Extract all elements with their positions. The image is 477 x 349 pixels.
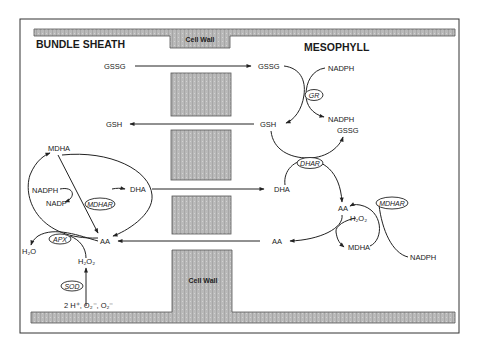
cell-wall-top-label: Cell Wall — [186, 36, 215, 43]
bs-h2o2-label: H₂O₂ — [78, 257, 95, 266]
ms-aa-label: AA — [338, 204, 348, 213]
ms-gssg-label: GSSG — [258, 62, 280, 71]
ms-aa-label: AA — [272, 237, 282, 246]
cell-wall-block-3 — [172, 196, 231, 234]
bs-aa-label: AA — [100, 237, 110, 246]
ms-mdha-label: MDHA — [348, 243, 370, 252]
bs-nadph-label: NADPH — [32, 186, 58, 195]
cell-wall-block-1 — [171, 73, 231, 116]
bs-gsh-label: GSH — [106, 120, 122, 129]
ms-gsh-label: GSH — [260, 120, 276, 129]
ms-gr-label: GR — [309, 92, 320, 99]
ms-mdhar-label: MDHAR — [379, 200, 405, 207]
ms-nadph-top-label: NADPH — [328, 64, 354, 73]
mesophyll-title: MESOPHYLL — [304, 41, 370, 53]
ms-dha-label: DHA — [274, 185, 290, 194]
bs-nadp-label: NADP — [46, 199, 67, 208]
cell-wall-bottom-label: Cell Wall — [189, 277, 218, 284]
ms-h2o2-label: H₂O₂ — [350, 214, 367, 223]
bs-sod-label: SOD — [64, 283, 79, 290]
bs-dha-label: DHA — [130, 185, 146, 194]
bs-gssg-label: GSSG — [104, 62, 126, 71]
bs-superoxide-label: 2 H⁺, O₂⁻, O₂⁻ — [64, 301, 114, 310]
ms-dhar-label: DHAR — [300, 160, 320, 167]
bs-mdhar-label: MDHAR — [87, 201, 113, 208]
cell-wall-block-2 — [171, 130, 231, 180]
ms-gssg-2-label: GSSG — [337, 126, 359, 135]
bs-h2o-label: H₂O — [22, 247, 36, 256]
bundle-sheath-title: BUNDLE SHEATH — [36, 38, 125, 50]
ms-nadph-bottom-label: NADPH — [410, 253, 436, 262]
ms-nadph-out-label: NADPH — [328, 115, 354, 124]
ascorbate-glutathione-cycle-diagram: Cell Wall Cell Wall BUNDLE SHEATH MESOPH… — [0, 0, 477, 349]
bs-apx-label: APX — [52, 236, 67, 243]
bs-mdha-label: MDHA — [48, 144, 70, 153]
